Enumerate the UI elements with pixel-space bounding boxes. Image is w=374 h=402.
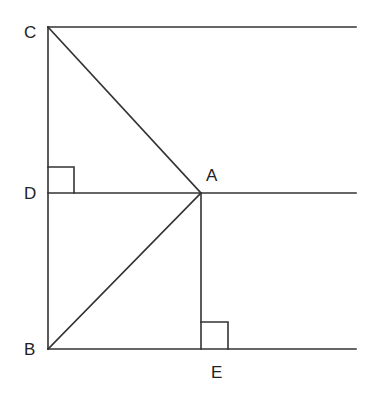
geometry-diagram: C D B A E (0, 0, 374, 402)
label-D: D (24, 184, 36, 203)
right-angle-E (201, 322, 228, 349)
label-E: E (211, 363, 222, 382)
label-B: B (24, 340, 35, 359)
right-angle-D (48, 167, 74, 193)
label-A: A (206, 166, 218, 185)
segment-C-A (48, 27, 201, 193)
label-C: C (24, 23, 36, 42)
segment-B-A (48, 193, 201, 349)
